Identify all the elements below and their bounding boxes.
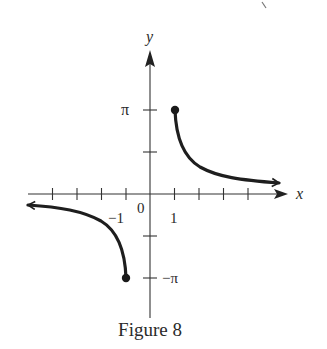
y-axis (143, 50, 157, 318)
y-tick-label-pi: π (121, 101, 129, 118)
x-tick-label-one: 1 (170, 210, 178, 226)
x-axis-label: x (295, 185, 303, 202)
x-axis (28, 188, 288, 200)
y-axis-label: y (144, 28, 154, 46)
figure-caption: Figure 8 (118, 319, 182, 340)
x-tick-label-neg-one: −1 (108, 210, 124, 226)
scan-mark (262, 2, 266, 8)
right-branch-endpoint-dot (171, 106, 179, 114)
right-branch-curve (175, 110, 279, 183)
y-tick-label-neg-pi: −π (162, 270, 178, 286)
figure-8-graph: y x 0 −1 1 π −π Figure 8 (0, 0, 327, 349)
origin-label: 0 (137, 200, 145, 216)
left-branch-endpoint-dot (122, 274, 130, 282)
